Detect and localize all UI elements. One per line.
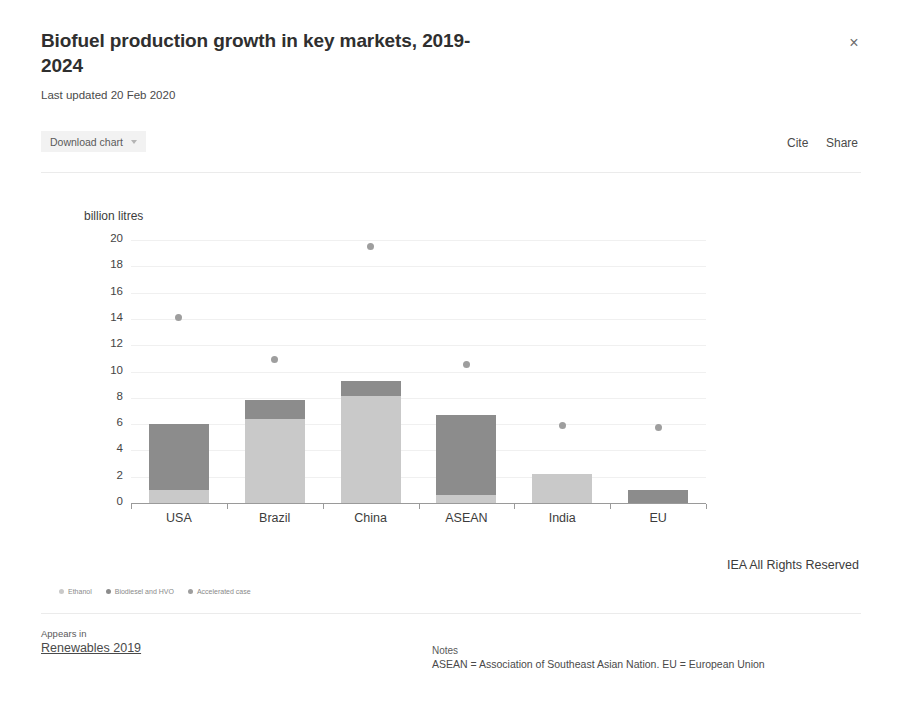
bar-segment-biodiesel[interactable] bbox=[341, 381, 401, 397]
y-axis-tick-label: 18 bbox=[93, 258, 123, 270]
y-axis-tick-label: 12 bbox=[93, 337, 123, 349]
download-chart-button[interactable]: Download chart bbox=[41, 131, 146, 152]
legend-swatch-icon bbox=[188, 589, 193, 594]
x-axis-category-label: ASEAN bbox=[411, 511, 521, 525]
legend-item[interactable]: Biodiesel and HVO bbox=[106, 588, 174, 595]
x-axis-tick bbox=[131, 504, 132, 509]
chart-modal: Biofuel production growth in key markets… bbox=[0, 0, 902, 703]
bar-segment-biodiesel[interactable] bbox=[245, 400, 305, 418]
x-axis-category-label: India bbox=[507, 511, 617, 525]
y-axis-tick-label: 14 bbox=[93, 311, 123, 323]
appears-in-label: Appears in bbox=[41, 628, 86, 639]
x-axis-tick bbox=[610, 504, 611, 509]
y-axis-tick-label: 0 bbox=[93, 495, 123, 507]
legend-label: Ethanol bbox=[68, 588, 92, 595]
x-axis-category-label: China bbox=[316, 511, 426, 525]
legend-swatch-icon bbox=[59, 589, 64, 594]
notes-label: Notes bbox=[432, 645, 458, 656]
bar-segment-ethanol[interactable] bbox=[436, 495, 496, 503]
gridline bbox=[131, 424, 706, 425]
y-axis-tick-label: 6 bbox=[93, 416, 123, 428]
bar-segment-biodiesel[interactable] bbox=[628, 490, 688, 503]
accelerated-case-marker[interactable] bbox=[367, 243, 374, 250]
accelerated-case-marker[interactable] bbox=[271, 356, 278, 363]
appears-in-link[interactable]: Renewables 2019 bbox=[41, 641, 141, 655]
y-axis-tick-label: 8 bbox=[93, 390, 123, 402]
legend-label: Biodiesel and HVO bbox=[115, 588, 174, 595]
gridline bbox=[131, 266, 706, 267]
bar-segment-ethanol[interactable] bbox=[532, 474, 592, 503]
page-title: Biofuel production growth in key markets… bbox=[41, 28, 511, 78]
chevron-down-icon bbox=[131, 140, 137, 144]
y-axis-tick-label: 2 bbox=[93, 469, 123, 481]
chart-plot-area: 02468101214161820USABrazilChinaASEANIndi… bbox=[41, 173, 861, 613]
gridline bbox=[131, 293, 706, 294]
y-axis-tick-label: 10 bbox=[93, 364, 123, 376]
x-axis-tick bbox=[323, 504, 324, 509]
x-axis-category-label: USA bbox=[124, 511, 234, 525]
gridline bbox=[131, 450, 706, 451]
accelerated-case-marker[interactable] bbox=[559, 422, 566, 429]
close-icon[interactable]: × bbox=[844, 33, 864, 53]
notes-text: ASEAN = Association of Southeast Asian N… bbox=[432, 658, 765, 670]
accelerated-case-marker[interactable] bbox=[175, 314, 182, 321]
legend-swatch-icon bbox=[106, 589, 111, 594]
gridline bbox=[131, 477, 706, 478]
download-chart-label: Download chart bbox=[50, 136, 123, 148]
rights-text: IEA All Rights Reserved bbox=[589, 558, 859, 572]
gridline bbox=[131, 319, 706, 320]
x-axis-category-label: Brazil bbox=[220, 511, 330, 525]
cite-button[interactable]: Cite bbox=[787, 136, 808, 150]
gridline bbox=[131, 240, 706, 241]
accelerated-case-marker[interactable] bbox=[655, 424, 662, 431]
legend-item[interactable]: Ethanol bbox=[59, 588, 92, 595]
bar-segment-ethanol[interactable] bbox=[245, 419, 305, 503]
x-axis-tick bbox=[514, 504, 515, 509]
chart-panel: billion litres 02468101214161820USABrazi… bbox=[41, 172, 861, 614]
gridline bbox=[131, 398, 706, 399]
x-axis-tick bbox=[419, 504, 420, 509]
gridline bbox=[131, 372, 706, 373]
x-axis-tick bbox=[706, 504, 707, 509]
bar-segment-biodiesel[interactable] bbox=[149, 424, 209, 490]
legend-label: Accelerated case bbox=[197, 588, 251, 595]
bar-segment-ethanol[interactable] bbox=[341, 396, 401, 503]
x-axis-category-label: EU bbox=[603, 511, 713, 525]
accelerated-case-marker[interactable] bbox=[463, 361, 470, 368]
legend-item[interactable]: Accelerated case bbox=[188, 588, 251, 595]
share-button[interactable]: Share bbox=[826, 136, 858, 150]
gridline bbox=[131, 345, 706, 346]
chart-legend: EthanolBiodiesel and HVOAccelerated case bbox=[59, 588, 251, 595]
y-axis-tick-label: 20 bbox=[93, 232, 123, 244]
x-axis-tick bbox=[227, 504, 228, 509]
bar-segment-ethanol[interactable] bbox=[149, 490, 209, 503]
y-axis-tick-label: 4 bbox=[93, 442, 123, 454]
y-axis-tick-label: 16 bbox=[93, 285, 123, 297]
bar-segment-biodiesel[interactable] bbox=[436, 415, 496, 495]
last-updated-text: Last updated 20 Feb 2020 bbox=[41, 89, 175, 101]
